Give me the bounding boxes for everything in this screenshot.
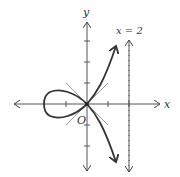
origin-label: O	[77, 114, 86, 127]
origin-point	[85, 102, 89, 106]
asymptote-label: x = 2	[116, 25, 143, 36]
x-axis-label: x	[164, 98, 171, 111]
y-axis	[84, 22, 90, 171]
strophoid-diagram: y x O x = 2	[0, 0, 180, 177]
y-axis-label: y	[82, 6, 90, 19]
